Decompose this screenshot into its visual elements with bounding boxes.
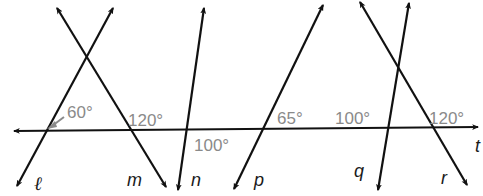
- line-n: [178, 8, 204, 190]
- line-p: [234, 5, 323, 189]
- angle-label-p: 65°: [277, 109, 303, 128]
- line-r: [360, 2, 467, 185]
- angle-label-q: 100°: [335, 109, 370, 128]
- angle-label-r: 120°: [429, 109, 464, 128]
- line-label-n: n: [191, 170, 201, 190]
- transversal-t: [14, 127, 478, 131]
- line-label-p: p: [253, 170, 264, 190]
- angle-label-n: 100°: [194, 136, 229, 155]
- line-label-m: m: [127, 170, 142, 190]
- line-l: [17, 8, 113, 186]
- line-label-l: ℓ: [34, 173, 42, 194]
- transversal-label-t: t: [475, 136, 481, 156]
- diagram-canvas: 60° 120° 100° 65° 100° 120° ℓ m n p q r …: [0, 0, 483, 196]
- line-label-r: r: [441, 168, 448, 188]
- angle-label-l: 60°: [67, 103, 93, 122]
- line-label-q: q: [354, 161, 364, 181]
- pointer-arrow-icon: [47, 117, 64, 129]
- angle-label-m: 120°: [128, 111, 163, 130]
- line-m: [57, 8, 166, 187]
- line-q: [378, 3, 409, 190]
